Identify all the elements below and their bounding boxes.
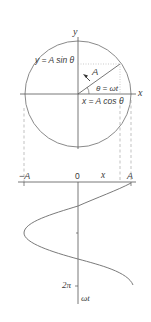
projection-y-label: y = A sin θ (35, 56, 74, 65)
projection-x-label: x = A cos θ (82, 97, 124, 106)
wave-2pi-label: 2π (62, 281, 71, 290)
angle-arc (87, 87, 89, 94)
wave-time-axis-label: ωt (81, 294, 90, 303)
angle-label: θ = ωt (96, 85, 118, 93)
cosine-displacement-curve (24, 183, 133, 285)
wave-minus-a-label: −A (19, 172, 30, 181)
circle-y-axis-label: y (73, 27, 77, 37)
wave-plus-a-label: A (127, 172, 133, 181)
wave-x-label: x (101, 171, 105, 181)
rotation-arrow-icon (83, 74, 90, 81)
vector-a-label: A (92, 67, 98, 77)
circle-x-axis-label: x (138, 88, 142, 98)
shm-projection-diagram (0, 0, 151, 322)
wave-origin-label: 0 (75, 172, 80, 181)
